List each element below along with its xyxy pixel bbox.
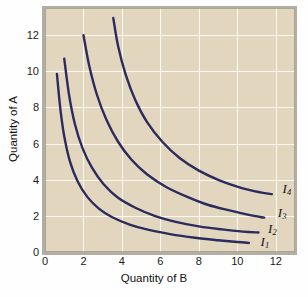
y-tick-label: 12 [15,29,39,41]
y-tick-label: 4 [15,174,39,186]
plot-area [45,8,295,252]
curve-label-i3: I3 [278,206,287,219]
x-tick-label: 8 [187,255,211,267]
curve-label-i2: I2 [268,222,277,235]
x-tick-label: 10 [225,255,249,267]
curve-label-subscript: 2 [273,227,277,237]
indifference-curve-figure: 024681012 024681012 I1I2I3I4 Quantity of… [0,0,308,297]
indifference-curve-i4 [113,18,272,194]
y-tick-label: 0 [15,246,39,258]
curve-label-subscript: 3 [282,211,286,221]
y-axis-title: Quantity of A [7,83,19,175]
curve-layer [45,8,295,252]
curve-label-letter: I [268,221,272,236]
x-axis-title: Quantity of B [0,272,308,284]
curve-label-i1: I1 [260,235,269,248]
x-tick-label: 2 [71,255,95,267]
indifference-curve-i1 [57,74,249,243]
y-tick-label: 10 [15,65,39,77]
curve-label-i4: I4 [283,182,292,195]
x-tick-label: 12 [264,255,288,267]
x-tick-label: 4 [110,255,134,267]
x-tick-label: 6 [148,255,172,267]
y-tick-label: 2 [15,210,39,222]
curve-label-subscript: 1 [265,240,269,250]
curve-label-subscript: 4 [287,187,291,197]
